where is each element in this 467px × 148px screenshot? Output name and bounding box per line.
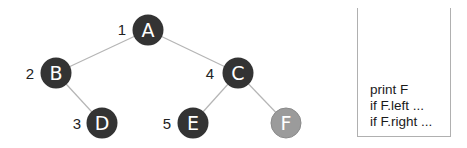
node-label: A: [142, 19, 155, 41]
code-line-if-left: if F.left ...: [370, 98, 432, 114]
pseudocode-lines: print F if F.left ... if F.right ...: [370, 82, 432, 130]
visit-order-label: 5: [163, 115, 171, 132]
code-line-print: print F: [370, 82, 432, 98]
node-label: C: [231, 62, 244, 84]
visit-order-label: 2: [26, 65, 34, 82]
code-line-if-right: if F.right ...: [370, 114, 432, 130]
visit-order-label: 1: [118, 21, 126, 38]
tree-node-e: E 5: [163, 108, 209, 139]
visit-order-label: 3: [73, 115, 81, 132]
tree-node-c: C 4: [206, 58, 254, 89]
pseudocode-box: print F if F.left ... if F.right ...: [357, 8, 451, 137]
node-label: D: [95, 112, 110, 134]
binary-tree-diagram: A 1 B 2 C 4 D 3 E 5 F: [0, 0, 340, 148]
visit-order-label: 4: [206, 65, 214, 82]
tree-node-d: D 3: [73, 108, 118, 139]
node-label: E: [187, 112, 199, 134]
node-label: B: [49, 62, 62, 84]
tree-node-f-current: F: [271, 108, 301, 138]
tree-node-b: B 2: [26, 58, 72, 89]
node-label: F: [281, 112, 292, 134]
